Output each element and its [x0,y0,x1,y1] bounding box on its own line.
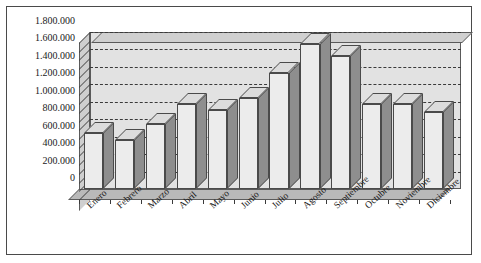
bar-side-face [103,122,114,189]
x-axis-tick [265,200,266,204]
x-axis-tick [79,200,80,204]
x-axis-tick [419,200,420,204]
bar-side-face [165,113,176,189]
bar-side-face [258,87,269,189]
x-axis-tick [234,200,235,204]
x-axis-tick [141,200,142,204]
bar [115,140,134,189]
bar [84,133,103,189]
bar-side-face [443,101,454,189]
plot-area [79,32,461,200]
x-axis-tick [110,200,111,204]
bar-front-face [269,73,288,189]
bar-front-face [115,140,134,189]
bar [239,98,258,189]
gridline [90,32,461,33]
bar [331,56,350,189]
x-axis-tick [450,200,451,204]
bar-front-face [208,110,227,189]
bar-front-face [84,133,103,189]
y-axis-tick-label: 0 [70,173,75,183]
y-axis-tick-label: 1.600.000 [35,33,75,43]
bar [177,104,196,189]
x-axis-tick [172,200,173,204]
bar-side-face [196,93,207,189]
chart-frame: 0200.000400.000600.000800.0001.000.0001.… [6,6,472,255]
x-axis-labels: EneroFebreroMarzoAbrilMayoJunioJulioAgos… [79,203,474,253]
gridline [90,49,461,50]
x-axis-tick [295,200,296,204]
bar-front-face [331,56,350,189]
x-axis-tick [388,200,389,204]
x-axis-tick [326,200,327,204]
y-axis-tick-label: 200.000 [43,156,76,166]
bar-side-face [289,62,300,189]
bar [208,110,227,189]
bar-front-face [146,124,165,189]
y-axis-tick-label: 1.800.000 [35,16,75,26]
bar [269,73,288,189]
y-axis-labels: 0200.000400.000600.000800.0001.000.0001.… [7,32,75,200]
y-axis-tick-label: 1.200.000 [35,68,75,78]
x-axis-tick [357,200,358,204]
bar-side-face [227,99,238,189]
plot-top-edge [91,32,473,43]
bar [300,44,319,189]
bar-side-face [381,93,392,189]
y-axis-tick-label: 400.000 [43,138,76,148]
y-axis-tick-label: 600.000 [43,121,76,131]
bar-side-face [412,93,423,189]
bar-front-face [239,98,258,189]
bar-side-face [350,45,361,189]
bar-front-face [300,44,319,189]
y-axis-tick-label: 1.400.000 [35,51,75,61]
bar [393,104,412,189]
bar-front-face [177,104,196,189]
bar [146,124,165,189]
bar-side-face [320,33,331,189]
y-axis-tick-label: 800.000 [43,103,76,113]
bar-front-face [393,104,412,189]
y-axis-tick-label: 1.000.000 [35,86,75,96]
x-axis-tick [203,200,204,204]
